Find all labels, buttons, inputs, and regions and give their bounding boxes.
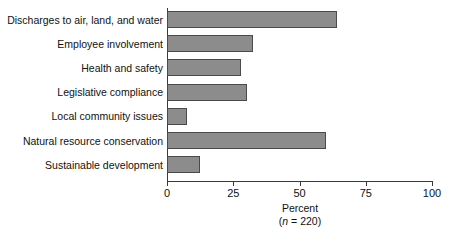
category-label: Discharges to air, land, and water [7,14,163,26]
x-axis-tick [366,181,367,186]
x-axis-title-text: Percent [282,202,318,214]
bar-row: Employee involvement [167,35,432,52]
sample-size-note: (n = 220) [167,215,433,228]
x-axis-tick [432,181,433,186]
category-label: Health and safety [81,62,163,74]
bar [167,11,337,28]
bar [167,59,241,76]
category-label: Sustainable development [45,159,163,171]
bar [167,35,253,52]
category-label: Legislative compliance [57,86,163,98]
category-label: Local community issues [52,110,163,122]
bar-row: Discharges to air, land, and water [167,11,432,28]
bar-row: Health and safety [167,59,432,76]
bar [167,156,200,173]
bar [167,108,187,125]
bar-chart: Discharges to air, land, and waterEmploy… [0,0,460,235]
bar [167,84,247,101]
x-axis-tick-label: 100 [423,187,441,200]
x-axis-tick-label: 0 [164,187,170,200]
x-axis-tick-label: 25 [227,187,239,200]
sample-note-suffix: = 220) [288,215,321,227]
x-axis-title: Percent (n = 220) [167,202,433,228]
x-axis-tick [167,181,168,186]
bar-row: Sustainable development [167,156,432,173]
x-axis-tick-label: 50 [293,187,305,200]
bar-row: Natural resource conservation [167,132,432,149]
x-axis-tick [233,181,234,186]
category-label: Natural resource conservation [23,135,163,147]
plot-area: Discharges to air, land, and waterEmploy… [167,8,432,180]
bar-row: Local community issues [167,108,432,125]
category-label: Employee involvement [57,38,163,50]
x-axis-tick-label: 75 [360,187,372,200]
bar [167,132,326,149]
x-axis-tick [300,181,301,186]
bar-row: Legislative compliance [167,84,432,101]
